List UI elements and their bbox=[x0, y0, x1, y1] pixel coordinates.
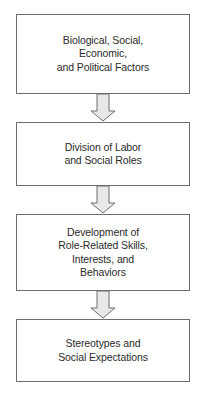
flowchart-node-label: Biological, Social, Economic, and Politi… bbox=[51, 34, 155, 75]
flowchart-diagram: Biological, Social, Economic, and Politi… bbox=[0, 0, 205, 396]
flowchart-node-division-of-labor-and-social-roles: Division of Labor and Social Roles bbox=[16, 122, 190, 186]
arrow-down-icon-3 bbox=[90, 291, 116, 319]
flowchart-node-development-of-role-related-skills: Development of Role-Related Skills, Inte… bbox=[16, 214, 190, 291]
flowchart-node-label: Division of Labor and Social Roles bbox=[58, 141, 147, 168]
flowchart-node-label: Stereotypes and Social Expectations bbox=[52, 337, 154, 364]
arrow-down-icon-2 bbox=[90, 186, 116, 214]
flowchart-node-stereotypes-and-social-expectations: Stereotypes and Social Expectations bbox=[16, 319, 190, 382]
flowchart-node-biological-social-economic-political-factors: Biological, Social, Economic, and Politi… bbox=[16, 14, 190, 94]
flowchart-node-label: Development of Role-Related Skills, Inte… bbox=[52, 226, 154, 280]
arrow-down-icon-1 bbox=[90, 94, 116, 122]
